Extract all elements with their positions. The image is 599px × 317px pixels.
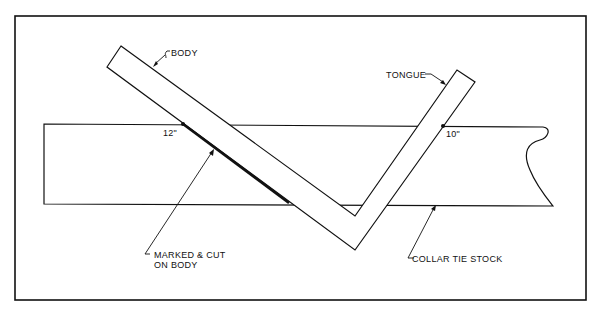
label-marked-cut-line1: MARKED & CUT — [154, 250, 226, 260]
marked-cut-leader — [145, 152, 212, 254]
tongue-leader — [425, 74, 443, 82]
diagram-canvas: BODY TONGUE 12" 10" MARKED & CUT ON BODY… — [0, 0, 599, 317]
collar-tie-leader — [408, 208, 434, 258]
label-10-inch: 10" — [446, 129, 460, 139]
label-marked-cut-line2: ON BODY — [154, 260, 198, 270]
mark-12-dot — [181, 122, 185, 126]
label-body: BODY — [171, 48, 198, 58]
mark-10-dot — [441, 124, 445, 128]
body-leader — [165, 51, 170, 58]
label-collar-tie-stock: COLLAR TIE STOCK — [412, 254, 503, 264]
label-12-inch: 12" — [163, 128, 177, 138]
label-tongue: TONGUE — [386, 70, 426, 80]
body-leader-shaft — [155, 55, 165, 64]
